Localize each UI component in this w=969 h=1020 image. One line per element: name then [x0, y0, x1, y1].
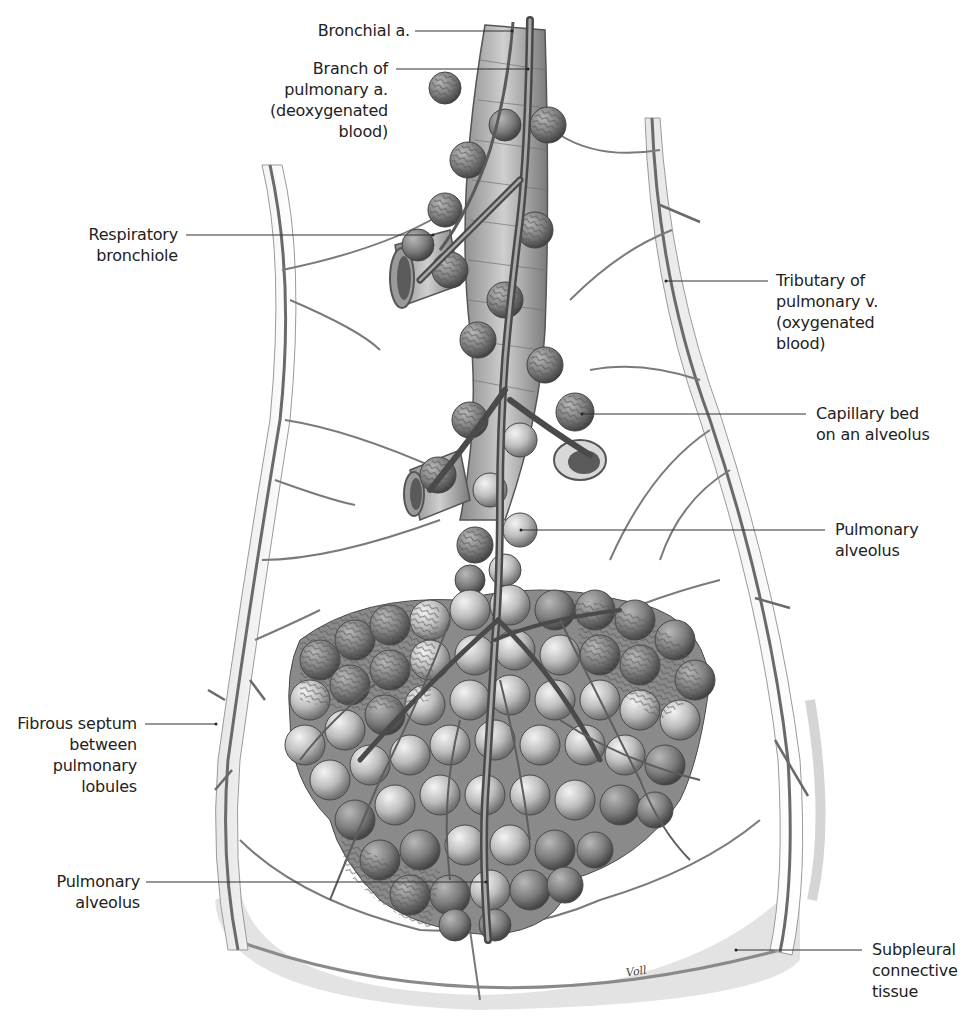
label-respiratory-bronchiole: Respiratory bronchiole — [40, 224, 178, 266]
label-subpleural-connective-tissue: Subpleural connective tissue — [872, 939, 969, 1002]
label-pulmonary-alveolus-lower: Pulmonary alveolus — [20, 871, 140, 913]
fibrous-septum-right — [645, 118, 821, 955]
label-fibrous-septum: Fibrous septum between pulmonary lobules — [0, 713, 137, 797]
lung-lobule-illustration — [0, 0, 969, 1020]
label-bronchial-artery: Bronchial a. — [250, 20, 410, 41]
fibrous-septum-left — [208, 165, 296, 950]
label-tributary-pulmonary-vein: Tributary of pulmonary v. (oxygenated bl… — [776, 270, 956, 354]
label-pulmonary-alveolus-upper: Pulmonary alveolus — [835, 519, 955, 561]
label-branch-pulmonary-artery: Branch of pulmonary a. (deoxygenated blo… — [230, 58, 388, 142]
label-capillary-bed: Capillary bed on an alveolus — [816, 403, 966, 445]
